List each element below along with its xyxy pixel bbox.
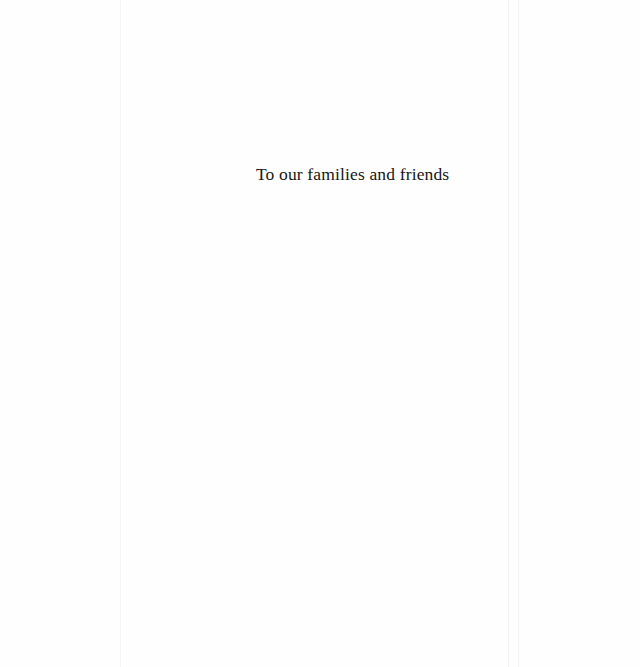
page-edge-left [120, 0, 121, 667]
dedication-page: To our families and friends [0, 0, 640, 667]
page-edge-right [508, 0, 509, 667]
page-edge-right-outer [518, 0, 519, 667]
dedication-text: To our families and friends [256, 163, 456, 185]
